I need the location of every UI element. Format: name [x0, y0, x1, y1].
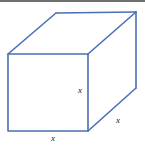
dimension-label-depth: x	[116, 116, 120, 125]
cube-diagram-figure: x x x	[0, 0, 145, 145]
dimension-label-height: x	[78, 86, 82, 95]
cube-edge-top-right-receding	[88, 12, 136, 54]
cube-edge-bottom-right-receding	[88, 88, 136, 131]
cube-edge-top-left-receding	[8, 13, 56, 54]
dimension-label-width: x	[51, 134, 55, 143]
cube-edge-front-face	[8, 54, 88, 131]
cube-edge-top-back	[56, 12, 136, 13]
cube-wireframe-svg	[0, 0, 145, 145]
